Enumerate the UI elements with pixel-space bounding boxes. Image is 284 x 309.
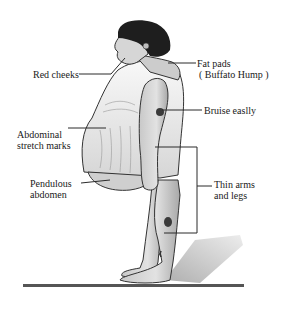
label-thin-arms-legs: Thin arms and legs <box>214 179 255 201</box>
label-fat-pads: Fat pads ( Buffato Hump ) <box>197 58 269 80</box>
leg-bruise <box>164 217 172 227</box>
label-abdominal-line2: stretch marks <box>17 140 71 151</box>
label-abdominal-stretch-marks: Abdominal stretch marks <box>17 129 71 151</box>
label-abdominal-line1: Abdominal <box>17 129 71 140</box>
leg-bruise-small <box>160 251 162 257</box>
label-thin-line2: and legs <box>214 190 255 201</box>
label-pendulous-abdomen: Pendulous abdomen <box>30 178 72 200</box>
ear <box>143 43 149 49</box>
label-thin-line1: Thin arms <box>214 179 255 190</box>
label-pendulous-line1: Pendulous <box>30 178 72 189</box>
arm-bruise <box>156 108 164 116</box>
label-fat-pads-line2: ( Buffato Hump ) <box>199 69 269 80</box>
label-pendulous-line2: abdomen <box>30 189 72 200</box>
floor-line <box>23 284 244 287</box>
floor-shadow <box>165 235 243 283</box>
figure-illustration <box>0 0 284 309</box>
label-red-cheeks: Red cheeks <box>33 69 79 80</box>
label-bruise-easily: Bruise easlly <box>204 105 256 116</box>
diagram: Red cheeks Fat pads ( Buffato Hump ) Bru… <box>0 0 284 309</box>
torso-dress <box>82 61 184 178</box>
label-fat-pads-line1: Fat pads <box>197 58 269 69</box>
